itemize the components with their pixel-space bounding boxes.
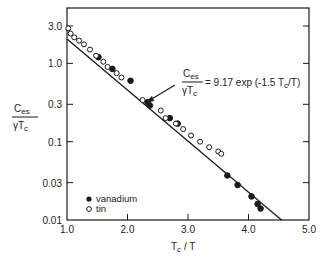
svg-text:γTc: γTc — [182, 85, 197, 98]
legend-vanadium-marker — [86, 196, 91, 201]
y-tick-label: 3.0 — [48, 21, 62, 32]
data-point-tin — [81, 42, 86, 47]
data-point-tin — [181, 127, 186, 132]
y-tick-label: 0.1 — [48, 137, 62, 148]
data-point-tin — [119, 75, 124, 80]
data-point-tin — [140, 98, 145, 103]
data-point-tin — [114, 71, 119, 76]
y-tick-label: 0.01 — [43, 215, 63, 226]
y-tick-label: 0.3 — [48, 99, 62, 110]
data-point-tin — [189, 133, 194, 138]
y-tick-label: 1.0 — [48, 58, 62, 69]
y-axis-label: Ces γTc — [12, 103, 38, 133]
y-label-denominator: γT — [13, 120, 24, 131]
plot-border — [67, 8, 309, 220]
x-tick-label: 2.0 — [121, 224, 135, 235]
data-point-tin — [77, 38, 82, 43]
fit-equation-annotation: Ces γTc = 9.17 exp (-1.5 Tc/T) — [145, 68, 300, 103]
data-point-tin — [163, 116, 168, 121]
svg-text:Ces: Ces — [183, 68, 199, 81]
data-point-tin — [219, 151, 224, 156]
x-tick-label: 5.0 — [302, 224, 316, 235]
data-point-tin — [158, 108, 163, 113]
annotation-arrow — [150, 85, 175, 100]
x-tick-label: 4.0 — [242, 224, 256, 235]
svg-text:= 9.17 exp (-1.5 Tc/T): = 9.17 exp (-1.5 Tc/T) — [205, 77, 300, 90]
data-point-tin — [173, 121, 178, 126]
legend-tin-label: tin — [96, 203, 106, 214]
data-point-tin — [72, 35, 77, 40]
data-point-tin — [66, 26, 71, 31]
data-point-tin — [198, 139, 203, 144]
svg-text:γTc: γTc — [13, 120, 28, 133]
data-point-vanadium — [258, 206, 264, 212]
y-label-numerator: C — [14, 103, 21, 114]
data-points — [66, 26, 264, 212]
legend-tin-marker — [87, 207, 92, 212]
data-point-vanadium — [128, 78, 134, 84]
svg-text:Ces: Ces — [14, 103, 30, 116]
data-point-vanadium — [147, 103, 153, 109]
legend: vanadium tin — [86, 193, 137, 214]
data-point-vanadium — [235, 182, 241, 188]
x-tick-label: 1.0 — [60, 224, 74, 235]
data-point-tin — [87, 47, 92, 52]
data-point-tin — [101, 59, 106, 64]
chart: 1.02.03.04.05.03.01.00.30.10.030.01 Ces … — [0, 0, 327, 265]
data-point-tin — [94, 53, 99, 58]
data-point-vanadium — [225, 173, 231, 179]
data-point-tin — [207, 145, 212, 150]
x-axis-label: Tc / T — [171, 241, 195, 254]
x-tick-label: 3.0 — [181, 224, 195, 235]
y-tick-label: 0.03 — [43, 178, 63, 189]
data-point-tin — [105, 64, 110, 69]
plot-frame — [67, 8, 309, 220]
data-point-vanadium — [249, 194, 255, 200]
